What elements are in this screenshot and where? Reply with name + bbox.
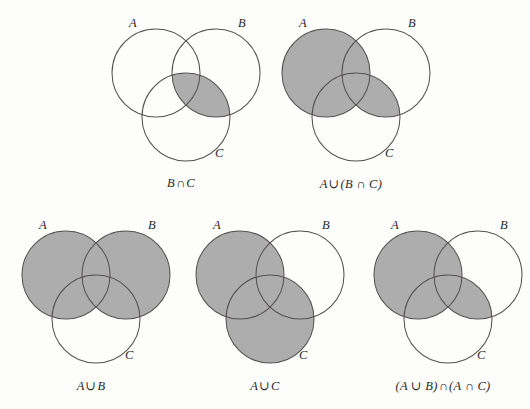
caption-operator: ∪ — [258, 379, 271, 393]
caption-lhs: (A ∪ B) — [396, 379, 438, 393]
venn-svg-a-union-c: A B C — [182, 216, 348, 376]
caption-operator: ∩ — [438, 379, 449, 393]
set-label-c: C — [477, 348, 486, 362]
set-label-b: B — [322, 218, 330, 232]
caption-a-union-b: A∪B — [8, 378, 174, 394]
caption-lhs: B — [167, 176, 175, 190]
venn-svg-b-inter-c: A B C — [98, 14, 264, 174]
caption-rhs: (A ∩ C) — [449, 379, 490, 393]
venn-diagram-figure-sheet: A B C B∩C A B C — [0, 0, 530, 409]
set-label-b: B — [238, 16, 246, 30]
shaded-region-group — [196, 231, 314, 363]
caption-lhs: A — [320, 177, 328, 191]
venn-svg-a-union-b-inter-c: A B C — [268, 14, 434, 174]
set-label-c: C — [125, 348, 134, 362]
caption-rhs: C — [186, 176, 195, 190]
venn-diagram-a-union-c: A B C A∪C — [182, 216, 348, 396]
caption-rhs: C — [271, 379, 280, 393]
venn-diagram-a-union-b-inter-c: A B C A∪(B ∩ C) — [268, 14, 434, 194]
venn-diagram-a-union-b-inter-a-inter-c: A B C (A ∪ B)∩(A ∩ C) — [360, 216, 526, 396]
set-label-b: B — [148, 218, 156, 232]
venn-svg-a-union-b: A B C — [8, 216, 174, 376]
set-label-c: C — [215, 146, 224, 160]
venn-svg-a-union-b-inter-a-inter-c: A B C — [360, 216, 526, 376]
caption-rhs: B — [97, 379, 105, 393]
caption-a-union-b-inter-a-inter-c: (A ∪ B)∩(A ∩ C) — [360, 378, 526, 394]
caption-operator: ∪ — [328, 177, 341, 191]
set-label-c: C — [385, 146, 394, 160]
shaded-region-group — [282, 29, 400, 161]
set-label-b: B — [500, 218, 508, 232]
caption-rhs: (B ∩ C) — [341, 177, 383, 191]
set-label-a: A — [38, 218, 47, 232]
caption-operator: ∩ — [175, 176, 186, 190]
set-label-a: A — [128, 16, 137, 30]
caption-a-union-c: A∪C — [182, 378, 348, 394]
caption-b-inter-c: B∩C — [98, 176, 264, 191]
caption-lhs: A — [77, 379, 85, 393]
venn-diagram-a-union-b: A B C A∪B — [8, 216, 174, 396]
set-label-a: A — [390, 218, 399, 232]
caption-a-union-b-inter-c: A∪(B ∩ C) — [268, 176, 434, 192]
venn-diagram-b-inter-c: A B C B∩C — [98, 14, 264, 194]
set-label-a: A — [298, 16, 307, 30]
set-label-c: C — [299, 348, 308, 362]
shaded-region-group — [374, 231, 492, 363]
caption-operator: ∪ — [85, 379, 98, 393]
set-label-b: B — [408, 16, 416, 30]
set-label-a: A — [212, 218, 221, 232]
